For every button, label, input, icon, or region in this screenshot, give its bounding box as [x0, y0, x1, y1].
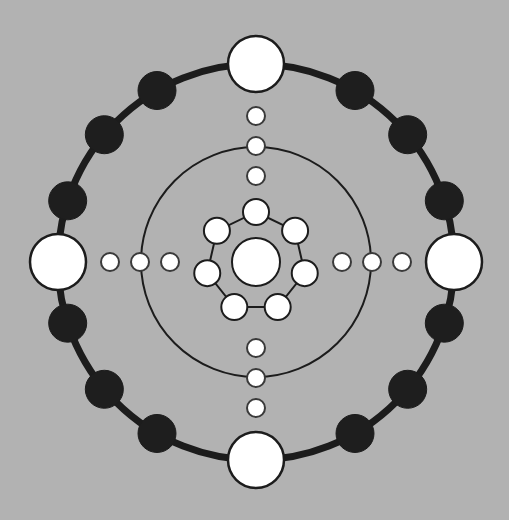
inner-ring-node [282, 218, 308, 244]
axis-node-west [30, 234, 86, 290]
axis-dot [161, 253, 179, 271]
axis-node-east [426, 234, 482, 290]
outer-black-node [85, 116, 123, 154]
axis-dot [393, 253, 411, 271]
inner-ring-node [292, 260, 318, 286]
outer-black-node [425, 182, 463, 220]
core-node [232, 238, 280, 286]
outer-black-node [49, 304, 87, 342]
outer-black-node [85, 370, 123, 408]
axis-dot [247, 399, 265, 417]
inner-ring-node [243, 199, 269, 225]
axis-dot [247, 339, 265, 357]
axis-dot [247, 369, 265, 387]
inner-ring-node [265, 294, 291, 320]
outer-black-node [425, 304, 463, 342]
outer-black-node [389, 370, 427, 408]
concentric-node-diagram [0, 0, 509, 520]
axis-dot [247, 167, 265, 185]
axis-node-north [228, 36, 284, 92]
axis-dot [363, 253, 381, 271]
outer-black-node [336, 72, 374, 110]
inner-ring-node [221, 294, 247, 320]
axis-dot [131, 253, 149, 271]
outer-black-node [336, 414, 374, 452]
inner-ring-node [194, 260, 220, 286]
axis-dot [247, 107, 265, 125]
axis-dot [333, 253, 351, 271]
outer-black-node [138, 72, 176, 110]
inner-ring-node [204, 218, 230, 244]
outer-black-node [389, 116, 427, 154]
axis-dot [247, 137, 265, 155]
outer-black-node [138, 414, 176, 452]
axis-dot [101, 253, 119, 271]
axis-node-south [228, 432, 284, 488]
diagram-canvas [0, 0, 509, 520]
outer-black-node [49, 182, 87, 220]
